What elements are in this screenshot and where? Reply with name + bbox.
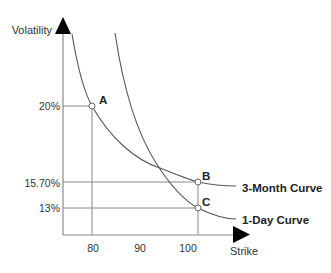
point-c-marker — [195, 205, 201, 211]
x-axis-arrow-icon — [233, 226, 250, 243]
point-b-label: B — [202, 170, 210, 182]
volatility-smile-chart: Volatility Strike 20% 15.70% 13% 80 90 1… — [0, 0, 331, 273]
point-a-marker — [89, 103, 95, 109]
chart-canvas: Volatility Strike 20% 15.70% 13% 80 90 1… — [0, 0, 331, 273]
y-tick-1570: 15.70% — [24, 177, 60, 189]
x-tick-80: 80 — [87, 242, 99, 254]
curve-3-month — [72, 34, 236, 186]
point-c-label: C — [202, 196, 210, 208]
x-tick-100: 100 — [179, 242, 197, 254]
y-tick-20: 20% — [39, 100, 60, 112]
curve-1-day — [115, 33, 236, 219]
legend-3-month-curve: 3-Month Curve — [242, 182, 323, 194]
point-a-label: A — [99, 94, 107, 106]
x-tick-90: 90 — [134, 242, 146, 254]
x-axis-label: Strike — [230, 245, 258, 257]
y-axis-label: Volatility — [12, 24, 53, 36]
point-b-marker — [195, 179, 201, 185]
y-tick-13: 13% — [39, 202, 60, 214]
y-axis-arrow-icon — [55, 17, 71, 34]
legend-1-day-curve: 1-Day Curve — [242, 214, 309, 226]
